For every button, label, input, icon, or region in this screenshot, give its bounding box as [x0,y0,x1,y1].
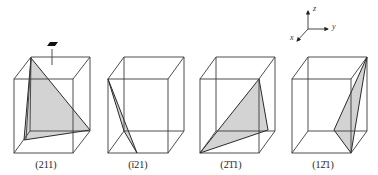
unit-cell-211 [14,42,90,153]
normal-marker-icon [47,42,58,46]
label-211: (211) [21,159,71,170]
plane-bar2-bar1-1 [200,79,268,153]
crystal-planes-diagram [0,0,378,175]
label-bar2-bar1-1: (2̄1̄1) [206,159,256,170]
plane-bar1-21 [108,79,137,153]
z-axis-label: z [313,4,316,13]
x-axis-label: x [290,33,294,42]
unit-cell-1-bar2-1 [292,57,367,153]
unit-cell-bar2-bar1-1 [200,57,275,153]
label-1-bar2-1: (12̄1) [298,159,348,170]
unit-cell-bar1-21 [108,57,184,153]
y-axis-label: y [332,22,336,31]
label-bar1-21: (ī21) [113,159,163,170]
axes-triad [297,11,328,41]
plane-1-bar2-1 [334,57,367,153]
x-axis-arrow [297,29,308,41]
